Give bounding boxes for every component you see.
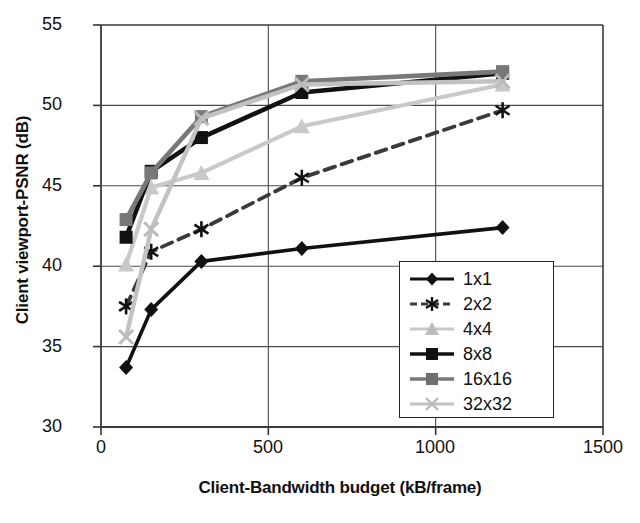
legend-label-32x32: 32x32 bbox=[463, 395, 512, 413]
legend-label-16x16: 16x16 bbox=[463, 370, 512, 388]
legend-key-4x4 bbox=[409, 319, 455, 339]
legend-key-16x16 bbox=[409, 369, 455, 389]
legend-label-4x4: 4x4 bbox=[463, 320, 492, 338]
legend-item-32x32: 32x32 bbox=[400, 391, 553, 416]
legend-item-16x16: 16x16 bbox=[400, 366, 553, 391]
legend-label-2x2: 2x2 bbox=[463, 295, 492, 313]
legend-key-32x32 bbox=[409, 394, 455, 414]
chart-figure: Client viewport-PSNR (dB) 55 50 45 40 35… bbox=[0, 0, 640, 523]
legend-label-1x1: 1x1 bbox=[463, 270, 492, 288]
legend-item-1x1: 1x1 bbox=[400, 266, 553, 291]
legend-key-8x8 bbox=[409, 344, 455, 364]
legend-key-2x2 bbox=[409, 294, 455, 314]
legend-item-2x2: 2x2 bbox=[400, 291, 553, 316]
legend-label-8x8: 8x8 bbox=[463, 345, 492, 363]
legend: 1x1 2x2 4x4 8x8 16x16 32x32 bbox=[399, 261, 554, 418]
legend-item-4x4: 4x4 bbox=[400, 316, 553, 341]
legend-item-8x8: 8x8 bbox=[400, 341, 553, 366]
legend-key-1x1 bbox=[409, 269, 455, 289]
